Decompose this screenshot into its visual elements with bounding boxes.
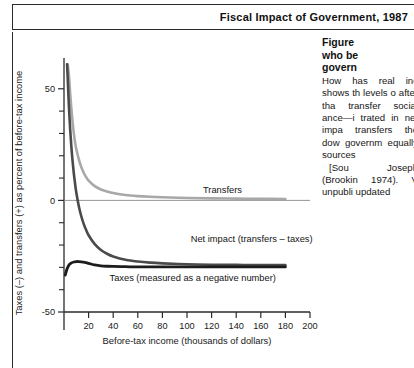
x-axis-title: Before-tax income (thousands of dollars) (103, 335, 272, 346)
figure-caption-column: Figure who be govern How has real inc sh… (322, 36, 414, 366)
series-label-1: Net impact (transfers – taxes) (191, 234, 313, 244)
x-tick-label: 20 (83, 321, 93, 331)
x-tick-label: 160 (253, 321, 268, 331)
x-tick-label: 40 (108, 321, 118, 331)
series-label-2: Taxes (measured as a negative number) (110, 273, 276, 283)
page-title: Fiscal Impact of Government, 1987 (220, 11, 408, 23)
series-label-0: Transfers (203, 185, 242, 195)
y-tick-label: -50 (42, 307, 55, 317)
chart-container: 500-5020406080100120140160180200Before-t… (0, 32, 322, 368)
caption-paragraph-2: [Sou Joseph (Brookin 1974). V unpubli up… (322, 162, 414, 199)
x-tick-label: 180 (278, 321, 293, 331)
caption-paragraph-1: How has real inc shows th levels o after… (322, 75, 414, 162)
screenshot-page: Fiscal Impact of Government, 1987 500-50… (0, 0, 414, 368)
fiscal-impact-line-chart: 500-5020406080100120140160180200Before-t… (0, 32, 322, 368)
x-tick-label: 120 (204, 321, 219, 331)
y-tick-label: 0 (50, 196, 55, 206)
caption-heading-line-2: who be (322, 49, 414, 62)
x-tick-label: 200 (302, 321, 317, 331)
caption-heading-line-1: Figure (322, 36, 414, 49)
y-tick-label: 50 (45, 84, 55, 94)
x-tick-label: 60 (133, 321, 143, 331)
series-line-0 (68, 64, 286, 199)
x-tick-label: 140 (229, 321, 244, 331)
caption-heading-line-3: govern (322, 61, 414, 74)
header-band: Fiscal Impact of Government, 1987 (12, 4, 414, 30)
caption-body: How has real inc shows th levels o after… (322, 75, 414, 199)
x-tick-label: 100 (179, 321, 194, 331)
y-axis-title: Taxes (–) and transfers (+) as percent o… (13, 71, 24, 316)
x-tick-label: 80 (157, 321, 167, 331)
